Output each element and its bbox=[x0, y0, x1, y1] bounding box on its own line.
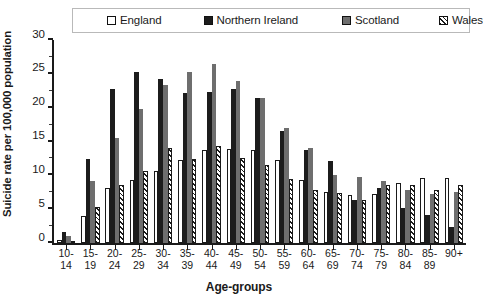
x-axis-tick-label: 70-74 bbox=[345, 248, 369, 271]
legend-label-northern-ireland: Northern Ireland bbox=[217, 15, 299, 27]
bar-group bbox=[224, 40, 248, 243]
y-axis-tick-label: 25 bbox=[32, 63, 45, 75]
bar-wales bbox=[71, 241, 76, 243]
bar-wales bbox=[265, 165, 270, 243]
y-axis-minor-tick bbox=[49, 191, 52, 192]
bar-wales bbox=[386, 185, 391, 243]
y-axis-tick-label: 5 bbox=[39, 198, 45, 210]
bar-wales bbox=[143, 171, 148, 243]
bar-wales bbox=[216, 146, 221, 243]
bar-group bbox=[78, 40, 102, 243]
bar-wales bbox=[362, 200, 367, 243]
x-axis-tick-label: 40-44 bbox=[199, 248, 223, 271]
bar-group bbox=[321, 40, 345, 243]
bar-group bbox=[345, 40, 369, 243]
y-axis-minor-tick bbox=[49, 90, 52, 91]
bar-group bbox=[393, 40, 417, 243]
bar-group bbox=[54, 40, 78, 243]
bar-group bbox=[199, 40, 223, 243]
legend-label-scotland: Scotland bbox=[355, 15, 399, 27]
legend-swatch-northern-ireland-icon bbox=[204, 16, 213, 25]
bar-group bbox=[127, 40, 151, 243]
y-axis-tick bbox=[48, 38, 53, 40]
x-axis-tick-label: 80-84 bbox=[393, 248, 417, 271]
x-axis-tick-label: 35-39 bbox=[175, 248, 199, 271]
bar-wales bbox=[434, 190, 439, 243]
y-axis-tick bbox=[48, 173, 53, 175]
x-axis-tick-label: 25-29 bbox=[127, 248, 151, 271]
bar-group bbox=[102, 40, 126, 243]
x-axis-tick-labels: 10-1415-1920-2425-2930-3435-3940-4445-49… bbox=[54, 248, 466, 271]
legend-item-northern-ireland: Northern Ireland bbox=[204, 15, 299, 27]
y-axis-minor-tick bbox=[49, 56, 52, 57]
bar-group bbox=[175, 40, 199, 243]
bar-group bbox=[272, 40, 296, 243]
y-axis-tick bbox=[48, 241, 53, 243]
chart-legend: England Northern Ireland Scotland Wales bbox=[72, 8, 470, 33]
legend-item-wales: Wales bbox=[439, 15, 483, 27]
bar-wales bbox=[192, 159, 197, 243]
bar-wales bbox=[313, 190, 318, 243]
bar-group bbox=[369, 40, 393, 243]
legend-swatch-wales-icon bbox=[439, 16, 448, 25]
y-axis-title: Suicide rate per 100,000 population bbox=[0, 0, 16, 248]
legend-item-scotland: Scotland bbox=[342, 15, 399, 27]
x-axis-tick-label: 45-49 bbox=[224, 248, 248, 271]
bar-group bbox=[248, 40, 272, 243]
legend-swatch-england-icon bbox=[107, 16, 116, 25]
y-axis-minor-tick bbox=[49, 157, 52, 158]
x-axis-tick-label: 55-59 bbox=[272, 248, 296, 271]
y-axis-tick bbox=[48, 207, 53, 209]
y-axis-tick-label: 30 bbox=[32, 29, 45, 41]
x-axis-tick-label: 75-79 bbox=[369, 248, 393, 271]
x-axis-tick-label: 85-89 bbox=[418, 248, 442, 271]
x-axis-tick-label: 30-34 bbox=[151, 248, 175, 271]
x-axis-tick-label: 60-64 bbox=[296, 248, 320, 271]
x-axis-tick-label: 15-19 bbox=[78, 248, 102, 271]
bar-wales bbox=[119, 185, 124, 243]
legend-label-england: England bbox=[120, 15, 162, 27]
bar-wales bbox=[95, 207, 100, 243]
x-axis-title: Age-groups bbox=[0, 280, 478, 294]
bar-wales bbox=[168, 148, 173, 243]
legend-label-wales: Wales bbox=[452, 15, 483, 27]
x-axis-tick-label: 50-54 bbox=[248, 248, 272, 271]
y-axis-tick-label: 0 bbox=[39, 232, 45, 244]
bar-wales bbox=[240, 158, 245, 243]
bar-wales bbox=[458, 185, 463, 243]
y-axis-minor-tick bbox=[49, 225, 52, 226]
x-axis-tick-label: 90+ bbox=[442, 248, 466, 271]
y-axis-tick-label: 10 bbox=[32, 164, 45, 176]
legend-swatch-scotland-icon bbox=[342, 16, 351, 25]
bar-groups bbox=[54, 40, 466, 243]
y-axis-tick bbox=[48, 106, 53, 108]
y-axis-title-text: Suicide rate per 100,000 population bbox=[1, 31, 13, 217]
bar-group bbox=[151, 40, 175, 243]
bar-group bbox=[296, 40, 320, 243]
y-axis-tick bbox=[48, 140, 53, 142]
bar-wales bbox=[410, 185, 415, 243]
plot-area: 051015202530 bbox=[52, 40, 466, 245]
x-axis-tick-label: 10-14 bbox=[54, 248, 78, 271]
y-axis-minor-tick bbox=[49, 124, 52, 125]
bar-wales bbox=[289, 179, 294, 243]
y-axis-tick-label: 15 bbox=[32, 130, 45, 142]
y-axis-tick bbox=[48, 72, 53, 74]
bar-wales bbox=[337, 193, 342, 243]
legend-item-england: England bbox=[107, 15, 162, 27]
x-axis-tick-label: 65-69 bbox=[321, 248, 345, 271]
bar-group bbox=[442, 40, 466, 243]
bar-group bbox=[418, 40, 442, 243]
x-axis-tick-label: 20-24 bbox=[102, 248, 126, 271]
y-axis-tick-label: 20 bbox=[32, 96, 45, 108]
